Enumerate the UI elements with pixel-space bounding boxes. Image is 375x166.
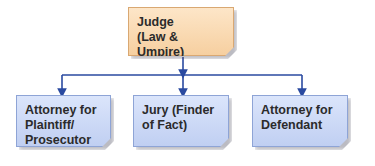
node-label-line: Attorney for: [261, 103, 339, 118]
node-label-line: Defendant: [261, 118, 339, 133]
node-label-line: of Fact): [142, 118, 220, 133]
judge-node: Judge (Law & Umpire): [128, 7, 234, 56]
attorney-plaintiff-node: Attorney for Plaintiff/ Prosecutor: [16, 95, 111, 147]
node-label-line: Prosecutor: [25, 133, 102, 148]
attorney-defendant-node: Attorney for Defendant: [252, 95, 348, 147]
node-label-line: Plaintiff/: [25, 118, 102, 133]
jury-node: Jury (Finder of Fact): [133, 95, 229, 147]
node-label-line: Attorney for: [25, 103, 102, 118]
node-label-line: Jury (Finder: [142, 103, 220, 118]
judge-subtitle: (Law & Umpire): [137, 30, 225, 60]
judge-title: Judge: [137, 15, 225, 30]
